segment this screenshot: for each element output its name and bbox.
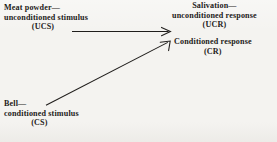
cs-line-1: Bell— — [4, 99, 79, 109]
ucr-line-1: Salivation— — [172, 1, 257, 11]
node-label-conditioned-stimulus: Bell— conditioned stimulus (CS) — [4, 99, 79, 128]
cs-abbreviation: (CS) — [4, 118, 79, 128]
node-label-unconditioned-stimulus: Meat powder— unconditioned stimulus (UCS… — [4, 3, 88, 32]
ucs-line-1: Meat powder— — [4, 3, 88, 13]
classical-conditioning-diagram: Meat powder— unconditioned stimulus (UCS… — [0, 0, 277, 142]
ucs-abbreviation: (UCS) — [4, 22, 88, 32]
ucr-abbreviation: (UCR) — [172, 20, 257, 30]
cr-abbreviation: (CR) — [174, 47, 252, 57]
node-label-unconditioned-response: Salivation— unconditioned response (UCR) — [172, 1, 257, 30]
cr-line-1: Conditioned response — [174, 37, 252, 47]
ucs-line-2: unconditioned stimulus — [4, 13, 88, 23]
cs-line-2: conditioned stimulus — [4, 109, 79, 119]
ucr-line-2: unconditioned response — [172, 11, 257, 21]
node-label-conditioned-response: Conditioned response (CR) — [174, 37, 252, 56]
arrow-cs-to-cr — [46, 41, 170, 105]
